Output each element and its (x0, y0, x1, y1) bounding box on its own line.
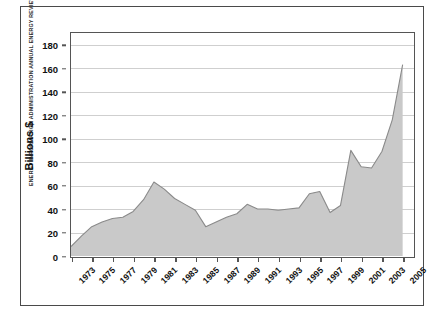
x-tick-mark (258, 258, 259, 262)
y-tick-label: 180 (42, 40, 58, 51)
y-tick-label: 20 (47, 228, 58, 239)
x-tick-label: 1975 (97, 265, 118, 286)
x-tick-label: 1997 (325, 265, 346, 286)
x-tick-mark (320, 258, 321, 262)
x-tick-mark (300, 258, 301, 262)
x-tick-mark (237, 258, 238, 262)
x-tick-label: 1991 (263, 265, 284, 286)
y-tick-mark (62, 162, 66, 163)
x-tick-label: 1989 (242, 265, 263, 286)
y-tick-label: 100 (42, 134, 58, 145)
x-tick-mark (217, 258, 218, 262)
y-tick-mark (62, 115, 66, 116)
x-axis-ticks: 1973197519771979198119831985198719891991… (70, 260, 415, 308)
y-axis-ticks: 020406080100120140160180 (0, 32, 66, 258)
x-tick-mark (154, 258, 155, 262)
y-tick-mark (62, 232, 66, 233)
x-tick-label: 2003 (387, 265, 408, 286)
y-tick-label: 40 (47, 204, 58, 215)
x-tick-mark (362, 258, 363, 262)
x-tick-label: 1977 (118, 265, 139, 286)
y-tick-mark (62, 209, 66, 210)
y-tick-label: 120 (42, 110, 58, 121)
y-tick-mark (62, 185, 66, 186)
x-tick-mark (72, 258, 73, 262)
x-tick-mark (403, 258, 404, 262)
y-tick-label: 60 (47, 181, 58, 192)
x-tick-mark (134, 258, 135, 262)
y-tick-label: 160 (42, 63, 58, 74)
x-tick-mark (92, 258, 93, 262)
x-tick-label: 1979 (138, 265, 159, 286)
area-series (71, 33, 413, 256)
x-tick-mark (113, 258, 114, 262)
x-tick-label: 1993 (283, 265, 304, 286)
x-tick-mark (279, 258, 280, 262)
x-tick-label: 1995 (304, 265, 325, 286)
y-tick-label: 140 (42, 87, 58, 98)
y-tick-label: 80 (47, 157, 58, 168)
x-tick-label: 2001 (366, 265, 387, 286)
x-tick-label: 1981 (159, 265, 180, 286)
x-tick-mark (196, 258, 197, 262)
x-tick-mark (382, 258, 383, 262)
plot-area (70, 32, 415, 258)
x-tick-label: 1999 (346, 265, 367, 286)
x-tick-mark (341, 258, 342, 262)
y-tick-mark (62, 91, 66, 92)
area-fill (71, 65, 403, 256)
x-tick-label: 1983 (180, 265, 201, 286)
y-tick-mark (62, 45, 66, 46)
y-tick-mark (62, 256, 66, 257)
x-tick-label: 1973 (76, 265, 97, 286)
x-tick-label: 1987 (221, 265, 242, 286)
x-tick-mark (175, 258, 176, 262)
x-tick-label: 1985 (200, 265, 221, 286)
chart-figure: ENERGY INFORMATION ADMINISTRATION ANNUAL… (0, 0, 429, 312)
y-tick-label: 0 (53, 251, 58, 262)
y-tick-mark (62, 68, 66, 69)
y-tick-mark (62, 138, 66, 139)
